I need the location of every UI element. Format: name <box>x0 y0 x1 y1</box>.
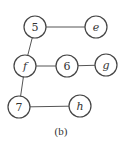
nodes-group: 5ef6g7h <box>8 16 117 118</box>
tree-diagram: 5ef6g7h (b) <box>0 0 122 151</box>
node-f: f <box>14 55 36 77</box>
node-5: 5 <box>24 16 46 38</box>
node-label: 6 <box>64 60 71 73</box>
node-label: h <box>76 100 83 113</box>
node-7: 7 <box>8 96 30 118</box>
diagram-caption: (b) <box>55 125 68 138</box>
node-g: g <box>95 54 117 76</box>
node-6: 6 <box>56 55 78 77</box>
node-label: g <box>102 59 109 72</box>
node-h: h <box>69 95 91 117</box>
node-label: 5 <box>32 21 39 34</box>
node-label: e <box>93 21 100 34</box>
node-label: 7 <box>16 101 23 114</box>
node-e: e <box>85 16 107 38</box>
